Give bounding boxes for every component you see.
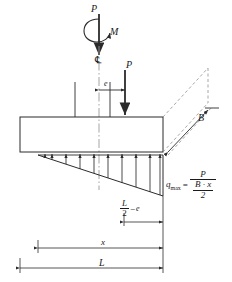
footing-rectangle (20, 117, 163, 152)
half-L-denominator: 2 (120, 209, 129, 218)
perspective-top-edge (163, 68, 208, 117)
qmax-subscript: max (171, 185, 181, 191)
top-load-group (84, 14, 110, 55)
formula-outer-fraction: P B · x 2 (190, 170, 216, 200)
eccentricity-in-dimension: e (136, 204, 140, 213)
pressure-hypotenuse (38, 155, 163, 196)
qmax-symbol: qmax (166, 179, 181, 191)
formula-inner-fraction: B · x 2 (193, 180, 213, 200)
label-dimension-x: x (101, 238, 105, 247)
moment-arc (84, 19, 110, 42)
label-half-L-minus-e: L 2 − e (120, 199, 140, 219)
formula-inner-numerator-Bx: B · x (193, 180, 213, 189)
qmax-formula: qmax = P B · x 2 (166, 170, 216, 200)
formula-numerator-P: P (197, 170, 209, 179)
label-dimension-L: L (99, 258, 105, 268)
diagram-svg (0, 0, 232, 282)
diagram-canvas: P M ℄ P e B x L L 2 − e qmax = P B · x 2 (0, 0, 232, 282)
fraction-half-L: L 2 (120, 199, 129, 219)
perspective-diagonal-lower (168, 107, 212, 155)
L-dimension (20, 253, 163, 273)
perspective-bottom-edge (163, 103, 208, 152)
perspective-group (163, 68, 219, 155)
pressure-distribution-group (38, 154, 163, 196)
formula-denominator: B · x 2 (190, 180, 216, 200)
formula-inner-denominator-2: 2 (199, 191, 208, 200)
label-eccentric-load-P: P (126, 60, 132, 70)
label-moment-M: M (110, 27, 118, 37)
formula-equals-sign: = (183, 180, 188, 190)
half-L-numerator: L (120, 199, 129, 208)
minus-sign: − (130, 204, 135, 214)
label-top-load-P: P (91, 4, 97, 14)
label-width-B: B (198, 113, 204, 123)
label-centerline-symbol: ℄ (95, 55, 101, 65)
label-eccentricity-e: e (104, 80, 108, 88)
